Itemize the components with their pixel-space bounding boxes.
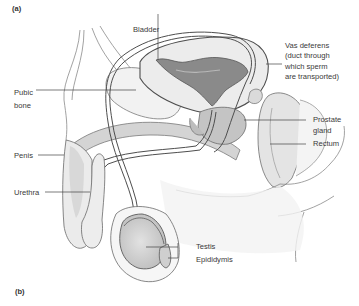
label-vas-deferens: Vas deferens (duct through which sperm a… [285, 41, 339, 83]
perineum-shade [160, 180, 304, 253]
label-pubic-bone-line2: bone [14, 99, 33, 112]
label-pubic-bone-line1: Pubic [14, 86, 33, 99]
label-vas-deferens-line2: (duct through [285, 51, 339, 61]
label-prostate-gland: Prostate gland [313, 115, 341, 136]
label-urethra: Urethra [14, 188, 39, 197]
label-testis: Testis [196, 242, 215, 251]
label-rectum: Rectum [313, 139, 339, 148]
label-vas-deferens-line3: which sperm [285, 62, 339, 72]
label-prostate-line1: Prostate [313, 115, 341, 126]
label-prostate-line2: gland [313, 126, 341, 137]
label-bladder: Bladder [133, 25, 159, 34]
label-vas-deferens-line1: Vas deferens [285, 41, 339, 51]
label-epididymis: Epididymis [196, 255, 233, 264]
male-reproductive-anatomy-figure: (a) (b) [0, 0, 359, 306]
label-pubic-bone: Pubic bone [14, 86, 33, 112]
label-penis: Penis [14, 151, 33, 160]
label-vas-deferens-line4: are transported) [285, 72, 339, 82]
